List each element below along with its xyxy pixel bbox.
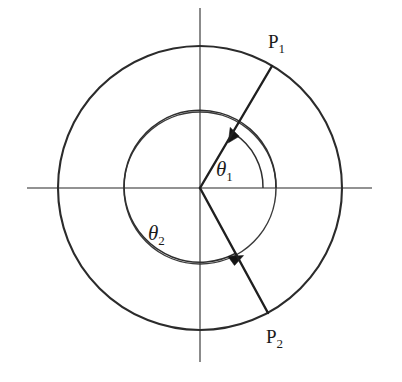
angle-label-theta2-sub: 2 bbox=[158, 233, 165, 248]
point-label-p1-sub: 1 bbox=[279, 41, 286, 56]
point-label-p2-sub: 2 bbox=[277, 336, 284, 351]
radius-line-p2 bbox=[200, 188, 268, 313]
point-label-p2-base: P bbox=[266, 326, 277, 347]
angle-label-theta1-sub: 1 bbox=[226, 169, 233, 184]
angle-label-theta1: θ1 bbox=[216, 157, 233, 184]
angle-label-theta2-base: θ bbox=[148, 221, 158, 245]
point-label-p1-base: P bbox=[268, 31, 279, 52]
point-label-p1: P1 bbox=[268, 31, 285, 56]
figure-container: P1 P2 θ1 θ2 bbox=[0, 0, 402, 382]
polar-angle-diagram: P1 P2 θ1 θ2 bbox=[0, 0, 402, 382]
point-label-p2: P2 bbox=[266, 326, 283, 351]
angle-label-theta1-base: θ bbox=[216, 157, 226, 181]
angle-label-theta2: θ2 bbox=[148, 221, 165, 248]
theta1-arc bbox=[234, 134, 263, 188]
